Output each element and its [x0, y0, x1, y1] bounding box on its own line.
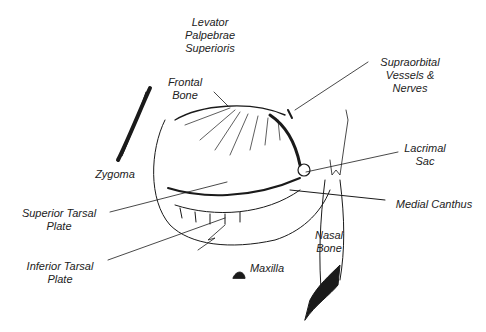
zygoma-shading: [118, 88, 150, 160]
label-inferior-tarsal-plate: Inferior TarsalPlate: [18, 260, 102, 286]
leader-inf-tarsal: [108, 218, 225, 260]
label-levator: LevatorPalpebraeSuperioris: [175, 16, 245, 55]
label-zygoma: Zygoma: [90, 168, 140, 181]
label-maxilla: Maxilla: [245, 262, 289, 275]
leader-supraorbital: [295, 62, 368, 110]
label-supraorbital: SupraorbitalVessels &Nerves: [370, 56, 450, 95]
lacrimal-sac-shape: [298, 164, 310, 176]
lateral-fold: [270, 115, 300, 165]
nasal-bone-shading: [305, 265, 340, 320]
label-medial-canthus: Medial Canthus: [388, 198, 480, 211]
leader-levator: [214, 92, 228, 106]
leader-medial-canthus: [290, 190, 385, 200]
leader-lacrimal: [306, 152, 398, 172]
leader-sup-tarsal: [110, 182, 227, 212]
label-superior-tarsal-plate: Superior TarsalPlate: [14, 207, 104, 233]
eyelid-anatomy-diagram: LevatorPalpebraeSuperioris FrontalBone S…: [0, 0, 486, 332]
label-nasal-bone: NasalBone: [312, 229, 346, 255]
label-frontal-bone: FrontalBone: [160, 76, 210, 102]
lid-margin: [168, 178, 300, 195]
label-lacrimal-sac: LacrimalSac: [400, 142, 450, 168]
